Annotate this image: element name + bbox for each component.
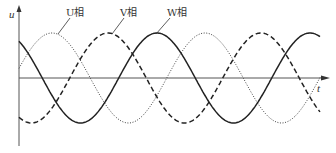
v-phase-leader-line [112,18,124,34]
u-phase-label: U相 [66,8,84,18]
u-phase-leader-line [58,18,70,34]
y-axis-label: u [9,9,15,20]
x-axis-label: t [317,83,320,94]
three-phase-waveform-diagram [0,0,336,153]
w-phase-label: W相 [167,8,187,18]
v-phase-label: V相 [120,8,137,18]
y-axis-arrow-icon [17,5,22,12]
x-axis-arrow-icon [321,76,330,81]
w-phase-leader-line [156,18,170,34]
